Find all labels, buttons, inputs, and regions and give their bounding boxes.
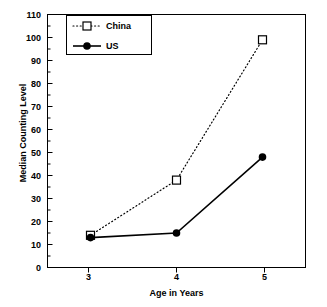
series-china-line (91, 40, 263, 236)
chart-figure: 0 10 20 30 40 50 60 70 80 90 100 110 3 4… (0, 0, 327, 307)
x-tick-label-3: 3 (77, 272, 101, 282)
series-china (87, 36, 267, 240)
series-us-line (91, 157, 263, 238)
data-point-us-age3 (87, 234, 95, 242)
x-axis-title: Age in Years (47, 288, 306, 298)
legend-label-us: US (106, 41, 119, 51)
x-tick-label-4: 4 (165, 272, 189, 282)
y-tick-label-0: 0 (15, 263, 41, 272)
data-point-china-age5 (259, 36, 267, 44)
y-tick-label-110: 110 (15, 10, 41, 19)
legend-entry-us: US (67, 36, 151, 56)
y-tick-label-20: 20 (15, 217, 41, 226)
data-point-us-age4 (173, 229, 181, 237)
open-square-marker-icon (72, 19, 102, 33)
legend-label-china: China (106, 21, 131, 31)
data-point-us-age5 (259, 153, 267, 161)
x-tick-label-5: 5 (253, 272, 277, 282)
legend-entry-china: China (67, 16, 151, 36)
y-tick-label-100: 100 (15, 33, 41, 42)
series-us (87, 153, 267, 241)
y-tick-label-10: 10 (15, 240, 41, 249)
chart-legend: China US (66, 15, 152, 55)
filled-circle-marker-icon (72, 39, 102, 53)
y-axis-title: Median Counting Level (18, 63, 28, 203)
data-point-china-age4 (173, 176, 181, 184)
plot-area (0, 0, 327, 307)
